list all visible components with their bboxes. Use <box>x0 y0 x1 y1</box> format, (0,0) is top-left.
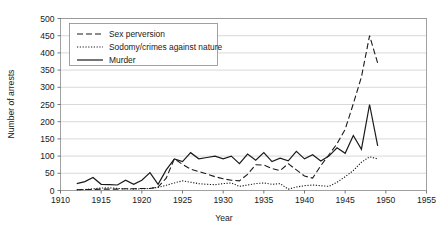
x-tick-label-1925: 1925 <box>173 195 192 205</box>
x-tick-label-1955: 1955 <box>417 195 436 205</box>
x-tick-label-1930: 1930 <box>214 195 233 205</box>
y-tick-label-400: 400 <box>40 48 55 58</box>
chart-legend: Sex perversionSodomy/crimes against natu… <box>70 24 223 66</box>
x-tick-label-1945: 1945 <box>336 195 355 205</box>
legend-label-0: Sex perversion <box>109 29 165 39</box>
x-tick-label-1920: 1920 <box>132 195 151 205</box>
chart-container: 050100150200250300350400450500 191019151… <box>0 0 445 231</box>
y-tick-label-50: 50 <box>45 168 55 178</box>
x-tick-label-1910: 1910 <box>51 195 70 205</box>
y-axis-title: Number of arrests <box>6 70 16 139</box>
x-tick-label-1915: 1915 <box>92 195 111 205</box>
y-tick-label-350: 350 <box>40 65 55 75</box>
y-tick-label-450: 450 <box>40 31 55 41</box>
x-tick-label-1935: 1935 <box>254 195 273 205</box>
x-tick-label-1950: 1950 <box>376 195 395 205</box>
x-axis-title: Year <box>215 213 233 223</box>
y-tick-label-150: 150 <box>40 134 55 144</box>
y-tick-label-200: 200 <box>40 117 55 127</box>
y-tick-label-250: 250 <box>40 100 55 110</box>
arrests-line-chart: 050100150200250300350400450500 191019151… <box>0 0 445 231</box>
legend-label-2: Murder <box>109 55 136 65</box>
y-tick-label-300: 300 <box>40 82 55 92</box>
x-tick-label-1940: 1940 <box>295 195 314 205</box>
y-tick-label-500: 500 <box>40 14 55 24</box>
legend-label-1: Sodomy/crimes against nature <box>109 42 222 52</box>
y-tick-label-100: 100 <box>40 151 55 161</box>
